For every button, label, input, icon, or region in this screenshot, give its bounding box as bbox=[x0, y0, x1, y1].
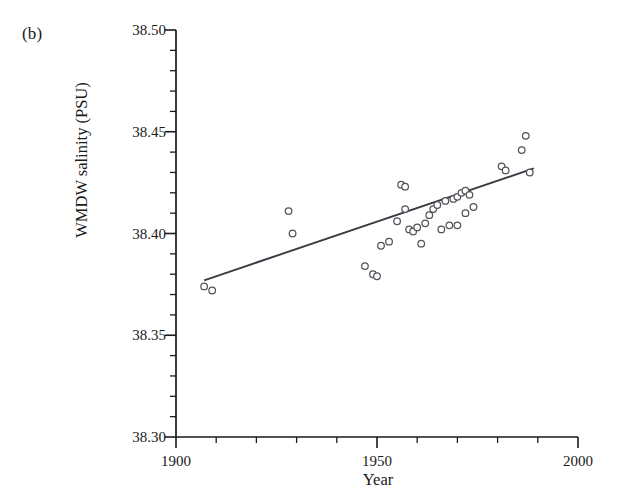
data-point bbox=[285, 208, 292, 215]
data-point-layer bbox=[201, 133, 533, 294]
data-point bbox=[442, 198, 449, 205]
data-point bbox=[201, 283, 208, 290]
data-point bbox=[386, 238, 393, 245]
scatter-plot-canvas bbox=[0, 0, 623, 503]
data-point bbox=[378, 242, 385, 249]
data-point bbox=[518, 147, 525, 154]
data-point bbox=[402, 183, 409, 190]
data-point bbox=[418, 240, 425, 247]
data-point bbox=[462, 210, 469, 217]
data-point bbox=[502, 167, 509, 174]
data-point bbox=[446, 222, 453, 229]
data-point bbox=[426, 212, 433, 219]
data-point bbox=[209, 287, 216, 294]
data-point bbox=[466, 192, 473, 199]
data-point bbox=[402, 206, 409, 213]
data-point bbox=[434, 202, 441, 209]
data-point bbox=[414, 224, 421, 231]
trend-line bbox=[204, 168, 534, 280]
axis-spines bbox=[176, 30, 578, 437]
figure-panel: (b) WMDW salinity (PSU) Year 38.3038.353… bbox=[0, 0, 623, 503]
data-point bbox=[394, 218, 401, 225]
data-point bbox=[454, 222, 461, 229]
data-point bbox=[522, 133, 529, 140]
data-point bbox=[422, 220, 429, 227]
data-point bbox=[289, 230, 296, 237]
plot-axes bbox=[165, 30, 578, 448]
data-point bbox=[374, 273, 381, 280]
regression-line bbox=[204, 168, 534, 280]
data-point bbox=[362, 263, 369, 270]
data-point bbox=[526, 169, 533, 176]
data-point bbox=[470, 204, 477, 211]
data-point bbox=[438, 226, 445, 233]
